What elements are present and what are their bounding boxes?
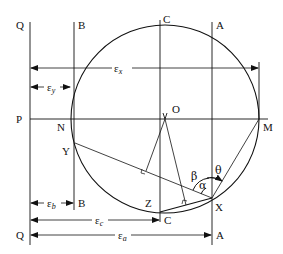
label-z: Z: [145, 197, 152, 209]
perp-o-yx: [146, 119, 165, 171]
label-beta: β: [191, 170, 197, 183]
label-o: O: [172, 103, 180, 115]
label-eps-y: εy: [47, 81, 56, 95]
perp-o-zx: [165, 119, 186, 205]
label-c-top: C: [163, 13, 170, 25]
label-theta: θ: [215, 164, 222, 177]
label-a-top: A: [216, 19, 224, 31]
label-b-bottom: B: [78, 197, 85, 209]
label-q-bottom: Q: [16, 229, 24, 241]
label-q-top: Q: [16, 19, 24, 31]
angle-arc-theta: [207, 178, 222, 181]
label-m: M: [263, 121, 273, 133]
label-p: P: [16, 113, 22, 125]
label-n: N: [57, 121, 65, 133]
label-a-bottom: A: [216, 229, 224, 241]
label-alpha: α: [199, 179, 207, 192]
label-c-bottom: C: [164, 214, 171, 226]
label-y: Y: [62, 145, 70, 157]
right-angle-mark-1: [141, 169, 145, 174]
label-eps-b: εb: [47, 197, 56, 211]
label-eps-x: εx: [114, 62, 123, 76]
label-b-top: B: [78, 19, 85, 31]
label-eps-c: εc: [95, 214, 104, 228]
chord-xm: [212, 119, 259, 198]
mohr-strain-diagram: Q B C A P N O M Y Z X B C Q A εx εy εb ε…: [0, 0, 283, 254]
label-eps-a: εa: [118, 229, 127, 243]
label-x: X: [215, 201, 223, 213]
origin-mark: [163, 113, 167, 119]
right-angle-mark-2: [182, 200, 187, 204]
